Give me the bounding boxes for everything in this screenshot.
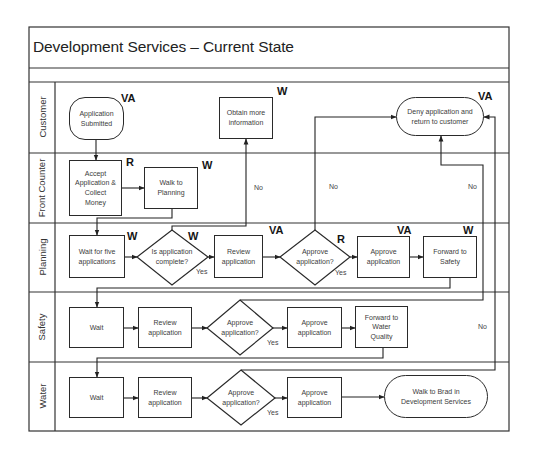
- node-text: information: [229, 118, 264, 128]
- node-text: application: [148, 328, 181, 338]
- node-forward-to-safety: Forward to Safety: [423, 236, 477, 278]
- node-text: Review: [154, 318, 177, 328]
- tag-waste: W: [202, 160, 212, 171]
- diagram-title: Development Services – Current State: [33, 38, 294, 56]
- edge-label-yes: Yes: [335, 269, 346, 277]
- lane-label-planning: Planning: [36, 223, 50, 292]
- node-text: Walk to Brad in: [412, 387, 459, 397]
- node-text: Forward to: [433, 247, 466, 257]
- node-text: Application: [79, 109, 113, 119]
- node-application-submitted: Application Submitted: [69, 97, 124, 140]
- node-text: Review: [227, 247, 250, 257]
- node-text: complete?: [156, 257, 188, 267]
- node-text: application: [298, 398, 331, 408]
- node-text: return to customer: [412, 117, 469, 127]
- edge-label-no: No: [329, 183, 338, 191]
- node-text: Approve: [302, 247, 328, 257]
- node-text: Wait for five: [79, 247, 116, 257]
- node-text: Safety: [440, 257, 460, 267]
- node-text: Application &: [75, 178, 116, 188]
- node-text: Wait: [90, 323, 104, 333]
- arrow-planning-no-to-deny: [315, 117, 396, 230]
- node-text: Walk to: [159, 178, 182, 188]
- node-text: Review: [154, 388, 177, 398]
- node-text: applications: [79, 257, 116, 267]
- decision-safety-approve-application: Approve application?: [210, 318, 270, 338]
- tag-value-added: VA: [121, 93, 135, 104]
- node-text: application?: [222, 398, 259, 408]
- node-text: Wait: [90, 393, 104, 403]
- node-water-wait: Wait: [69, 377, 124, 418]
- node-text: Deny application and: [407, 107, 472, 117]
- node-safety-approve-application: Approve application: [287, 307, 342, 348]
- edge-label-yes: Yes: [196, 268, 207, 276]
- node-text: Approve: [370, 247, 396, 257]
- tag-value-added: VA: [397, 225, 411, 236]
- node-text: Forward to: [365, 313, 398, 323]
- tag-required: R: [337, 234, 345, 245]
- node-text: Submitted: [81, 119, 113, 129]
- node-text: Is application: [152, 247, 193, 257]
- lane-label-water: Water: [36, 362, 50, 431]
- node-text: Development Services: [401, 397, 471, 407]
- node-text: Obtain more: [227, 108, 266, 118]
- edge-label-yes: Yes: [267, 339, 278, 347]
- node-safety-review-application: Review application: [138, 307, 192, 348]
- node-text: Money: [85, 198, 106, 208]
- lane-label-safety: Safety: [35, 292, 49, 362]
- tag-value-added: VA: [478, 91, 492, 102]
- edge-label-no: No: [254, 184, 263, 192]
- node-walk-to-brad: Walk to Brad in Development Services: [384, 375, 488, 418]
- node-water-approve-application: Approve application: [287, 377, 342, 418]
- node-text: Approve: [228, 388, 254, 398]
- edge-label-yes: Yes: [267, 409, 278, 417]
- edge-label-no: No: [468, 183, 477, 191]
- node-wait-for-five-applications: Wait for five applications: [69, 235, 125, 278]
- tag-waste: W: [127, 231, 137, 242]
- node-text: application?: [221, 328, 258, 338]
- node-text: Collect: [85, 188, 106, 198]
- node-text: Water: [372, 322, 390, 332]
- tag-waste: W: [277, 86, 287, 97]
- node-text: Accept: [85, 169, 106, 179]
- lane-label-front-counter: Front Counter: [35, 153, 49, 223]
- node-text: application?: [296, 257, 333, 267]
- node-planning-approve-application: Approve application: [357, 236, 410, 278]
- node-text: Approve: [227, 318, 253, 328]
- tag-required: R: [126, 157, 134, 168]
- swimlane-diagram: Development Services – Current State Cus…: [0, 0, 536, 453]
- node-text: application: [367, 257, 400, 267]
- node-forward-to-water-quality: Forward to Water Quality: [355, 306, 408, 348]
- lane-label-customer: Customer: [36, 82, 50, 153]
- decision-planning-approve-application: Approve application?: [283, 247, 347, 267]
- node-text: application: [222, 257, 255, 267]
- node-obtain-more-information: Obtain more information: [219, 97, 273, 139]
- node-water-review-application: Review application: [138, 377, 192, 418]
- node-safety-wait: Wait: [69, 307, 124, 348]
- tag-waste: W: [188, 231, 198, 242]
- edge-label-no: No: [478, 323, 487, 331]
- tag-value-added: VA: [269, 225, 283, 236]
- node-text: application: [148, 398, 181, 408]
- tag-waste: W: [463, 225, 473, 236]
- decision-is-application-complete: Is application complete?: [140, 247, 204, 267]
- node-text: Approve: [301, 318, 327, 328]
- decision-water-approve-application: Approve application?: [211, 388, 271, 408]
- node-walk-to-planning: Walk to Planning: [144, 167, 198, 209]
- node-planning-review-application: Review application: [214, 235, 263, 278]
- node-text: Quality: [371, 332, 393, 342]
- node-text: Planning: [157, 188, 184, 198]
- node-accept-application: Accept Application & Collect Money: [69, 160, 122, 216]
- node-deny-application: Deny application and return to customer: [396, 97, 484, 136]
- node-text: Approve: [301, 388, 327, 398]
- node-text: application: [298, 328, 331, 338]
